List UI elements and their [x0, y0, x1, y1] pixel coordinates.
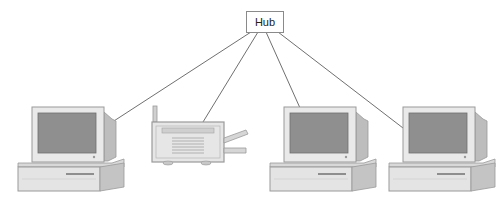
computer-2-icon: [270, 107, 376, 191]
printer-icon: [152, 106, 248, 165]
computer-1-icon: [18, 107, 124, 191]
computer-3-icon: [389, 107, 495, 191]
link-hub-computer-2: [266, 32, 300, 108]
network-diagram: Hub: [0, 0, 499, 203]
hub-node: Hub: [246, 11, 284, 33]
hub-label: Hub: [255, 16, 275, 28]
